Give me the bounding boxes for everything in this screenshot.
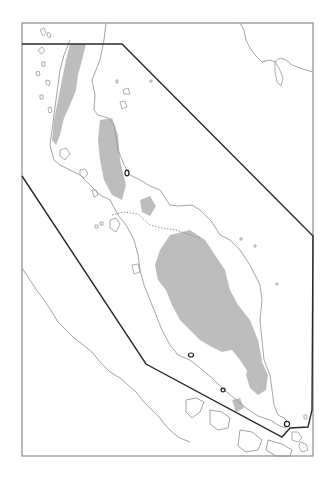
peninsula-landmass [50,23,288,428]
highland-south [246,360,268,395]
marker-south [221,388,225,392]
coastline-sumatra [22,268,190,442]
tip-islands [292,415,308,452]
highland-central [155,230,262,375]
map-canvas [0,0,332,478]
highland-small-1 [140,196,156,216]
marker-central [188,353,193,357]
marker-tip [284,421,289,426]
marker-north [125,170,129,176]
island-gulf [275,62,283,86]
